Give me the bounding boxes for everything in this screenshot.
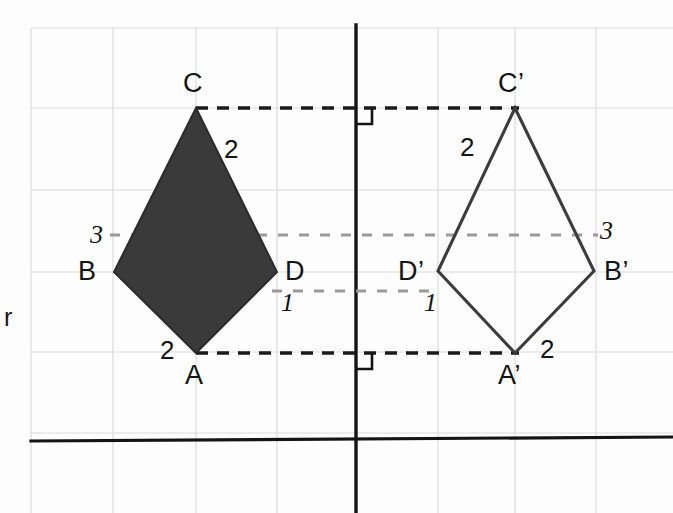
vertex-label-D: D — [285, 258, 305, 285]
measure-label-1: 1 — [281, 290, 294, 316]
vertex-label-Dp: D’ — [398, 258, 425, 285]
vertex-label-Cp: C’ — [498, 70, 525, 97]
side-length-label-preimage-1: 2 — [160, 337, 174, 363]
side-length-label-preimage-0: 2 — [224, 136, 238, 162]
kite-ABCD[interactable] — [114, 108, 277, 353]
right-angle-mark-bottom — [356, 353, 372, 369]
right-angle-marks — [356, 108, 372, 369]
side-length-label-image-0: 2 — [460, 134, 474, 160]
measure-label-0: 3 — [90, 222, 103, 248]
measure-label-3: 1 — [424, 290, 437, 316]
side-length-label-image-1: 2 — [540, 336, 554, 362]
baseline — [31, 437, 673, 441]
vertex-label-A: A — [185, 362, 204, 389]
measure-label-2: 3 — [600, 218, 613, 244]
vertex-label-Ap: A’ — [498, 362, 521, 389]
vertex-label-C: C — [183, 70, 203, 97]
right-angle-mark-top — [356, 108, 372, 124]
vertex-label-B: B — [78, 258, 97, 285]
vertex-label-Bp: B’ — [604, 258, 629, 285]
axis-label-r: r — [4, 305, 12, 330]
diagram-canvas — [0, 0, 673, 513]
reflection-diagram: r CDABC’B’A’D’22223131 — [0, 0, 673, 513]
